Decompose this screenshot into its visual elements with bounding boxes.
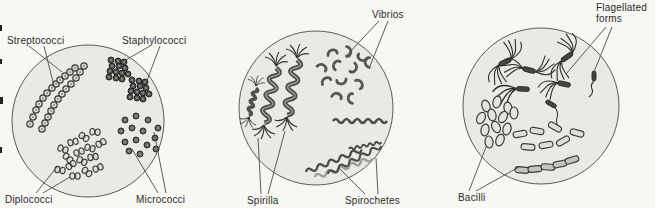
scan-edge-artifacts [0, 25, 3, 153]
figure-drawing [0, 0, 655, 208]
label-diplococci: Diplococci [5, 194, 53, 205]
label-bacilli: Bacilli [458, 192, 486, 203]
label-staphylococci: Staphylococci [122, 35, 186, 46]
microscope-field-rods [463, 24, 619, 191]
microscope-field-spiral [238, 21, 393, 194]
label-flagellated-forms: Flagellated forms [596, 2, 647, 24]
label-spirilla: Spirilla [247, 195, 279, 206]
label-micrococci: Micrococci [136, 194, 185, 205]
label-flagellated-line2: forms [596, 13, 647, 24]
label-spirochetes: Spirochetes [345, 195, 400, 206]
label-streptococci: Streptococci [7, 35, 64, 46]
label-flagellated-line1: Flagellated [596, 2, 647, 13]
bacteria-morphology-figure: Streptococci Staphylococci Diplococci Mi… [0, 0, 655, 208]
microscope-field-cocci [12, 45, 166, 197]
label-vibrios: Vibrios [372, 9, 404, 20]
